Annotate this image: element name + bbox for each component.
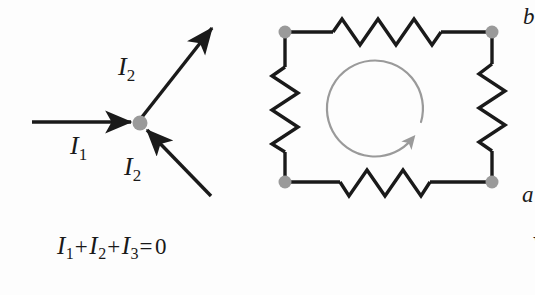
node-dot-d	[486, 176, 499, 189]
resistor-left	[272, 67, 298, 152]
junction-node-dot	[133, 116, 148, 131]
node-label-b: b	[523, 4, 535, 30]
resistor-bottom	[340, 170, 430, 196]
figure-root: I1 I2 I2 I1+I2+I3=0	[0, 0, 535, 295]
loop-rule-panel: b c a d I Vba+Vcb+Vdc+Vad=0	[260, 0, 535, 295]
resistor-right	[479, 64, 505, 151]
current-label-i2-upper: I2	[118, 52, 135, 86]
junction-rule-equation: I1+I2+I3=0	[57, 232, 168, 263]
resistor-top	[333, 19, 441, 45]
node-dot-a	[279, 176, 292, 189]
current-arrow-i2-lower	[147, 130, 211, 196]
junction-rule-panel: I1 I2 I2 I1+I2+I3=0	[0, 0, 260, 295]
current-label-i1: I1	[70, 131, 87, 165]
loop-circuit-svg	[260, 0, 535, 295]
loop-current-arrow	[327, 60, 423, 156]
current-arrow-i2-upper	[142, 28, 212, 117]
node-dot-c	[486, 26, 499, 39]
node-dot-b	[279, 26, 292, 39]
node-label-a: a	[522, 182, 534, 208]
current-label-i2-lower: I2	[124, 152, 141, 186]
